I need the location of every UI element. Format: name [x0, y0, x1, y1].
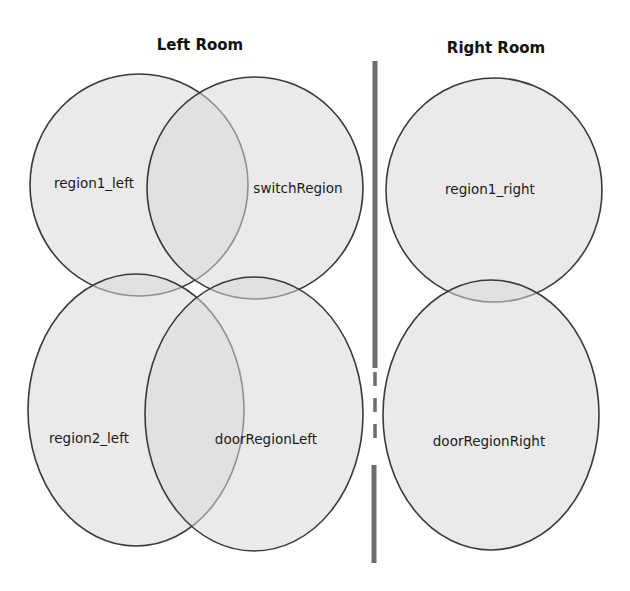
dividing-wall: [374, 61, 375, 563]
right-room-title: Right Room: [447, 39, 545, 57]
region1-right-label: region1_right: [445, 181, 535, 197]
door-region-right-ellipse: [383, 280, 599, 550]
region2-left-label: region2_left: [49, 430, 129, 446]
left-room: [28, 74, 363, 551]
door-region-left-ellipse: [145, 277, 363, 551]
door-region-left-label: doorRegionLeft: [215, 431, 317, 447]
door-region-right-label: doorRegionRight: [433, 433, 545, 449]
left-room-title: Left Room: [157, 36, 243, 54]
region1-left-label: region1_left: [54, 175, 134, 191]
room-regions-diagram: Left Room Right Room region1_left switch…: [0, 0, 630, 591]
switch-region-label: switchRegion: [253, 180, 342, 196]
right-room: [383, 78, 602, 550]
